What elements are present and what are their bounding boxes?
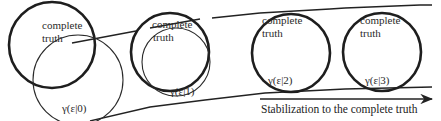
truth-label-0-line2: truth [42,32,63,44]
gamma-label-3: γ(ε|3) [364,74,390,87]
stabilization-diagram: complete truth γ(ε|0) complete truth γ(ε… [0,0,441,121]
truth-label-3-line2: truth [360,27,381,39]
gamma-label-1: γ(ε|1) [169,85,195,98]
arrow-caption: Stabilization to the complete truth [261,103,418,116]
truth-label-0-line1: complete [42,19,82,31]
funnel-top-line-mid [260,5,420,13]
complete-truth-circle-0 [9,2,95,88]
truth-label-2-line2: truth [262,27,283,39]
truth-label-1-line1: complete [152,18,192,30]
gamma-label-0: γ(ε|0) [61,102,87,115]
truth-label-2-line1: complete [262,14,302,26]
gamma-label-2: γ(ε|2) [267,74,293,87]
truth-label-1-line2: truth [153,31,174,43]
truth-label-3-line1: complete [360,14,400,26]
